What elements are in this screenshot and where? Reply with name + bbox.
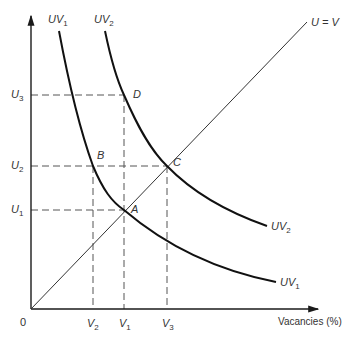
x-tick-v1: V1	[119, 318, 131, 332]
point-c-label: C	[173, 157, 181, 168]
point-a-label: A	[131, 204, 138, 215]
uv2-top-label: UV2	[94, 14, 114, 28]
y-tick-u3: U3	[11, 89, 23, 103]
origin-label: 0	[20, 317, 26, 328]
u-equals-v-line	[31, 22, 307, 309]
u-equals-v-label: U = V	[311, 17, 339, 28]
x-tick-v3: V3	[162, 318, 174, 332]
uv1-top-label: UV1	[48, 14, 68, 28]
y-tick-u2: U2	[11, 160, 23, 174]
guide-lines	[31, 95, 167, 309]
y-tick-u1: U1	[11, 204, 23, 218]
uv2-curve	[105, 31, 267, 226]
uv-diagram	[0, 0, 352, 343]
uv2-end-label: UV2	[271, 221, 291, 235]
x-axis-label: Vacancies (%)	[278, 317, 342, 327]
x-tick-v2: V2	[87, 318, 99, 332]
point-d-label: D	[133, 89, 141, 100]
uv1-end-label: UV1	[280, 277, 300, 291]
point-b-label: B	[97, 150, 104, 161]
